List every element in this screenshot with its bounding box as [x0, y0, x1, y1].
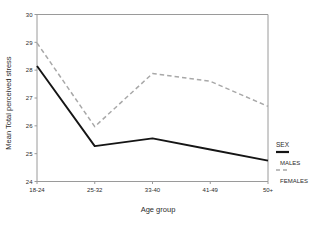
y-tick-label: 25 [26, 151, 33, 157]
y-tick-label: 26 [26, 123, 33, 129]
legend-label-males: MALES [280, 160, 300, 166]
legend-title: SEX [276, 141, 290, 148]
x-tick-label: 18-24 [29, 187, 45, 193]
x-axis-title: Age group [141, 205, 176, 214]
y-tick-label: 28 [26, 67, 33, 73]
line-chart: 24252627282930 18-2425-3233-4041-4950+ M… [0, 0, 317, 225]
y-tick-label: 24 [26, 179, 33, 185]
chart-figure: 24252627282930 18-2425-3233-4041-4950+ M… [0, 0, 317, 225]
y-tick-label: 30 [26, 12, 33, 18]
x-tick-label: 41-49 [203, 187, 219, 193]
x-tick-label: 25-32 [87, 187, 103, 193]
y-tick-label: 29 [26, 40, 33, 46]
y-tick-label: 27 [26, 95, 33, 101]
legend-label-females: FEMALES [280, 178, 308, 184]
x-tick-label: 50+ [263, 187, 274, 193]
y-axis-title: Mean Total perceived stress [4, 56, 13, 149]
x-tick-label: 33-40 [145, 187, 161, 193]
